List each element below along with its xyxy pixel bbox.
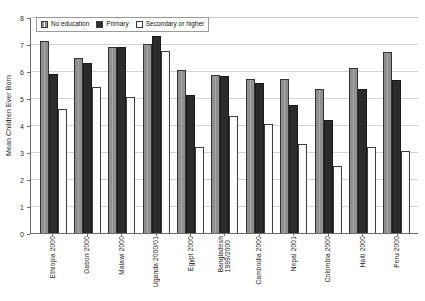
x-axis-label: Colombia 2000: [324, 236, 331, 282]
bar-group: [242, 18, 276, 233]
bar-noedu[interactable]: [211, 75, 220, 233]
bar-secondary[interactable]: [367, 147, 376, 233]
bar-group: [208, 18, 242, 233]
bar-group: [311, 18, 345, 233]
x-axis-label-cell: Gabon 2000: [69, 236, 103, 300]
bar-group: [139, 18, 173, 233]
bar-group: [105, 18, 139, 233]
x-axis-label-cell: Bangladesh 1999/2000: [207, 236, 241, 300]
legend-item-primary[interactable]: Primary: [96, 21, 128, 28]
x-axis-label: Egypt 2000: [187, 236, 194, 271]
bar-primary[interactable]: [392, 80, 401, 233]
bar-noedu[interactable]: [74, 58, 83, 234]
x-axis-labels: Ethiopia 2000Gabon 2000Malawi 2000Uganda…: [30, 236, 418, 300]
bar-noedu[interactable]: [177, 70, 186, 233]
bar-group: [345, 18, 379, 233]
bar-primary[interactable]: [324, 120, 333, 233]
bar-secondary[interactable]: [161, 51, 170, 233]
bar-primary[interactable]: [220, 76, 229, 233]
bar-primary[interactable]: [255, 83, 264, 233]
chart-container: 012345678 Mean Children Ever Born No edu…: [0, 0, 425, 301]
x-axis-label: Cambodia 2000: [255, 236, 262, 285]
x-axis-label-cell: Cambodia 2000: [242, 236, 276, 300]
legend-swatch-icon: [41, 21, 48, 28]
bar-group: [36, 18, 70, 233]
x-axis-label-cell: Malawi 2000: [104, 236, 138, 300]
bar-group: [380, 18, 414, 233]
legend-item-secondary[interactable]: Secondary or higher: [136, 21, 205, 28]
legend-label: No education: [51, 21, 89, 28]
bar-noedu[interactable]: [246, 79, 255, 233]
bar-noedu[interactable]: [280, 79, 289, 233]
legend-item-noedu[interactable]: No education: [41, 21, 89, 28]
x-axis-label: Peru 2000: [393, 236, 400, 268]
bar-secondary[interactable]: [333, 166, 342, 234]
x-axis-label-cell: Uganda 2000/01: [138, 236, 172, 300]
bar-group: [173, 18, 207, 233]
x-axis-label: Nepal 2001: [290, 236, 297, 271]
bar-noedu[interactable]: [383, 52, 392, 233]
x-axis-label-cell: Colombia 2000: [311, 236, 345, 300]
legend-swatch-icon: [136, 21, 143, 28]
bar-noedu[interactable]: [315, 89, 324, 233]
x-axis-label: Haiti 2000: [359, 236, 366, 267]
x-axis-label: Bangladesh 1999/2000: [217, 236, 231, 272]
bar-secondary[interactable]: [58, 109, 67, 233]
bar-noedu[interactable]: [40, 41, 49, 233]
bar-secondary[interactable]: [195, 147, 204, 233]
x-axis-label: Uganda 2000/01: [152, 236, 159, 287]
y-axis-tick-label: 0: [4, 231, 24, 238]
bar-primary[interactable]: [49, 74, 58, 233]
bar-group: [277, 18, 311, 233]
bar-secondary[interactable]: [298, 144, 307, 233]
bar-secondary[interactable]: [92, 87, 101, 233]
x-axis-label: Ethiopia 2000: [49, 236, 56, 278]
bar-primary[interactable]: [152, 36, 161, 233]
x-axis-label: Malawi 2000: [118, 236, 125, 275]
bar-primary[interactable]: [289, 105, 298, 233]
x-axis-label-cell: Haiti 2000: [345, 236, 379, 300]
x-axis-label-cell: Peru 2000: [380, 236, 414, 300]
x-axis-label-cell: Ethiopia 2000: [35, 236, 69, 300]
bar-primary[interactable]: [83, 63, 92, 233]
y-axis-tick-mark: [27, 234, 30, 235]
plot-area: [30, 18, 418, 234]
bar-primary[interactable]: [117, 47, 126, 233]
x-axis-label-cell: Egypt 2000: [173, 236, 207, 300]
legend-swatch-icon: [96, 21, 103, 28]
bar-primary[interactable]: [186, 95, 195, 233]
legend-label: Primary: [106, 21, 128, 28]
legend-label: Secondary or higher: [146, 21, 205, 28]
bar-noedu[interactable]: [349, 68, 358, 233]
y-axis-title: Mean Children Ever Born: [5, 16, 12, 216]
bar-secondary[interactable]: [126, 97, 135, 233]
legend: No educationPrimarySecondary or higher: [36, 17, 209, 32]
bar-secondary[interactable]: [264, 124, 273, 233]
bar-secondary[interactable]: [401, 151, 410, 233]
bar-noedu[interactable]: [143, 44, 152, 233]
bar-group: [70, 18, 104, 233]
bar-primary[interactable]: [358, 89, 367, 233]
bar-noedu[interactable]: [108, 47, 117, 233]
x-axis-label-cell: Nepal 2001: [276, 236, 310, 300]
bar-groups: [31, 18, 418, 233]
bar-secondary[interactable]: [229, 116, 238, 233]
x-axis-label: Gabon 2000: [83, 236, 90, 274]
